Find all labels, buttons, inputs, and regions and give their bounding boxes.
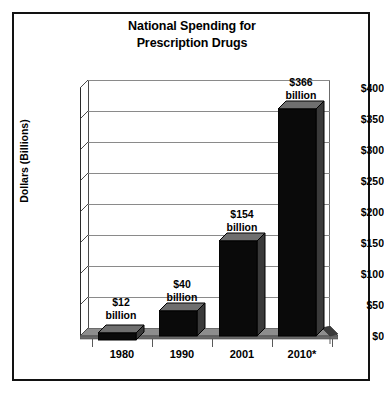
x-tick-label-1980: 1980 [91, 348, 153, 360]
bar-2001 [219, 226, 275, 342]
x-tick-label-2001: 2001 [211, 348, 273, 360]
x-tick-mark-3 [272, 339, 273, 347]
plot-area: $400 $350 $300 $250 $200 $150 $100 $50 $… [0, 0, 384, 395]
x-tick-mark-2 [212, 339, 213, 347]
chart-figure: National Spending for Prescription Drugs… [0, 0, 384, 395]
x-tick-mark-1 [152, 339, 153, 347]
bar-value-amount-1990: $40 [147, 278, 217, 291]
bar-value-amount-1980: $12 [86, 296, 156, 309]
x-tick-mark-4 [332, 339, 333, 347]
bar-value-amount-2010: $366 [266, 76, 336, 89]
bar-value-amount-2001: $154 [207, 208, 277, 221]
bar-1990 [159, 296, 215, 342]
bar-1980 [98, 318, 154, 342]
bar-2010 [278, 94, 334, 342]
x-tick-mark-0 [92, 339, 93, 347]
y-axis-line [80, 88, 81, 336]
x-tick-label-2010: 2010* [271, 348, 333, 360]
x-tick-label-1990: 1990 [151, 348, 213, 360]
